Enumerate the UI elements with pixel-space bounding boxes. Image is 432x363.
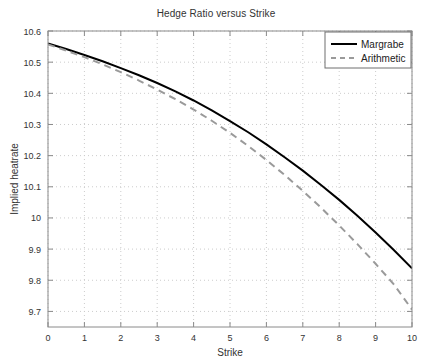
x-axis-title: Strike: [217, 347, 243, 358]
x-axis-tick-labels: 012345678910: [45, 333, 417, 343]
x-tick-label: 0: [45, 333, 50, 343]
chart-figure: Hedge Ratio versus Strike 10.610.510.410…: [0, 0, 432, 363]
chart-legend[interactable]: Margrabe Arithmetic: [325, 32, 411, 68]
x-tick-label: 8: [337, 333, 342, 343]
y-axis-tick-labels: 10.610.510.410.310.210.1109.99.89.7: [23, 27, 41, 317]
y-tick-label: 10.1: [23, 182, 41, 192]
y-tick-label: 10.5: [23, 58, 41, 68]
y-axis-title: Implied heatrate: [9, 143, 20, 215]
y-tick-label: 9.8: [28, 276, 41, 286]
x-tick-label: 2: [118, 333, 123, 343]
y-tick-label: 10.4: [23, 89, 41, 99]
x-tick-label: 9: [373, 333, 378, 343]
y-tick-label: 10.3: [23, 120, 41, 130]
y-tick-label: 9.7: [28, 307, 41, 317]
y-tick-label: 10: [31, 213, 41, 223]
x-tick-label: 5: [227, 333, 232, 343]
x-tick-label: 7: [300, 333, 305, 343]
x-tick-label: 6: [264, 333, 269, 343]
y-tick-label: 10.6: [23, 27, 41, 37]
y-tick-label: 10.2: [23, 151, 41, 161]
legend-label-arithmetic: Arithmetic: [361, 53, 405, 64]
x-tick-label: 4: [191, 333, 196, 343]
chart-plot-area: 10.610.510.410.310.210.1109.99.89.7 0123…: [0, 0, 432, 363]
legend-label-margrabe: Margrabe: [361, 39, 404, 50]
x-tick-label: 3: [155, 333, 160, 343]
y-tick-label: 9.9: [28, 245, 41, 255]
x-tick-label: 10: [407, 333, 417, 343]
x-tick-label: 1: [82, 333, 87, 343]
